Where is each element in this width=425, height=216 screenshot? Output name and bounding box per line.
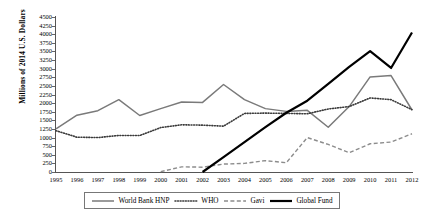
- y-tick-mark: [52, 95, 55, 96]
- y-tick-label: 2750: [39, 74, 52, 80]
- legend-item-world-bank-hnp[interactable]: World Bank HNP: [91, 197, 169, 205]
- legend-label: World Bank HNP: [118, 197, 169, 205]
- y-tick-mark: [52, 60, 55, 61]
- legend-item-who[interactable]: WHO: [174, 197, 218, 205]
- line-solid-black-icon: [269, 197, 293, 205]
- y-tick-label: 2000: [39, 100, 52, 106]
- y-tick-mark: [52, 155, 55, 156]
- y-tick-mark: [52, 146, 55, 147]
- line-dashed-icon: [223, 197, 247, 205]
- x-axis-tick-labels: 1995199619971998199920002001200220032004…: [56, 176, 412, 188]
- y-tick-label: 4250: [39, 22, 52, 28]
- y-tick-mark: [52, 34, 55, 35]
- legend-item-gavi[interactable]: Gavi: [223, 197, 264, 205]
- series-line-gavi: [161, 134, 412, 172]
- y-tick-mark: [52, 163, 55, 164]
- x-tick-label: 2012: [399, 176, 425, 183]
- y-tick-mark: [52, 69, 55, 70]
- y-tick-label: 1000: [39, 134, 52, 140]
- legend-label: Gavi: [250, 197, 264, 205]
- y-tick-label: 3000: [39, 65, 52, 71]
- y-tick-mark: [52, 129, 55, 130]
- y-tick-label: 250: [42, 160, 52, 166]
- y-tick-label: 3500: [39, 48, 52, 54]
- y-tick-label: 750: [42, 143, 52, 149]
- y-tick-label: 1500: [39, 117, 52, 123]
- x-axis-line: [55, 172, 413, 173]
- legend-label: WHO: [201, 197, 218, 205]
- y-tick-label: 1750: [39, 109, 52, 115]
- line-chart-figure: Millions of 2014 U.S. Dollars 4500425040…: [0, 0, 425, 216]
- y-tick-mark: [52, 26, 55, 27]
- y-tick-mark: [52, 51, 55, 52]
- y-tick-mark: [52, 77, 55, 78]
- y-tick-mark: [52, 43, 55, 44]
- chart-legend: World Bank HNPWHOGaviGlobal Fund: [84, 192, 340, 209]
- y-tick-mark: [52, 120, 55, 121]
- y-tick-label: 1250: [39, 126, 52, 132]
- plot-area: [56, 17, 412, 172]
- line-dotted-icon: [174, 197, 198, 205]
- line-solid-gray-icon: [91, 197, 115, 205]
- series-lines: [56, 17, 412, 172]
- y-tick-mark: [52, 172, 55, 173]
- y-tick-mark: [52, 103, 55, 104]
- y-tick-label: 4000: [39, 31, 52, 37]
- y-tick-label: 4500: [39, 14, 52, 20]
- y-tick-label: 3250: [39, 57, 52, 63]
- legend-item-global-fund[interactable]: Global Fund: [269, 197, 332, 205]
- y-axis-tick-labels: 4500425040003750350032503000275025002250…: [22, 13, 52, 175]
- y-tick-label: 2500: [39, 83, 52, 89]
- y-tick-mark: [52, 86, 55, 87]
- y-tick-label: 3750: [39, 40, 52, 46]
- y-tick-mark: [52, 17, 55, 18]
- legend-label: Global Fund: [296, 197, 332, 205]
- y-tick-mark: [52, 138, 55, 139]
- series-line-global-fund: [203, 33, 412, 173]
- y-tick-label: 2250: [39, 91, 52, 97]
- y-tick-mark: [52, 112, 55, 113]
- y-tick-label: 500: [42, 152, 52, 158]
